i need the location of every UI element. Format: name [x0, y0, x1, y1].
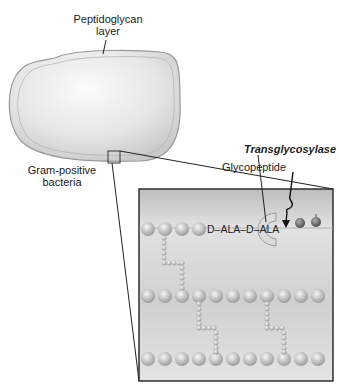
gram-positive-label: Gram-positive bacteria — [22, 164, 102, 188]
bottom-strand — [141, 352, 325, 366]
peptidoglycan-label: Peptidoglycan layer — [70, 13, 146, 37]
peptidoglycan-label-line2: layer — [70, 25, 146, 37]
gram-positive-label-line1: Gram-positive — [22, 164, 102, 176]
peptidoglycan-label-line1: Peptidoglycan — [70, 13, 146, 25]
diagram: Peptidoglycan layer Gram-positive bacter… — [0, 0, 339, 387]
glycopeptide-label: Glycopeptide — [218, 161, 290, 173]
bacterial-cell — [9, 50, 180, 161]
middle-strand — [141, 289, 325, 303]
transglycosylase-label: Transglycosylase — [242, 143, 338, 155]
magnified-wall-box — [139, 189, 333, 381]
gram-positive-label-line2: bacteria — [22, 176, 102, 188]
dala-label: D–ALA–D–ALA — [207, 223, 267, 235]
diagram-graphics — [0, 0, 339, 387]
